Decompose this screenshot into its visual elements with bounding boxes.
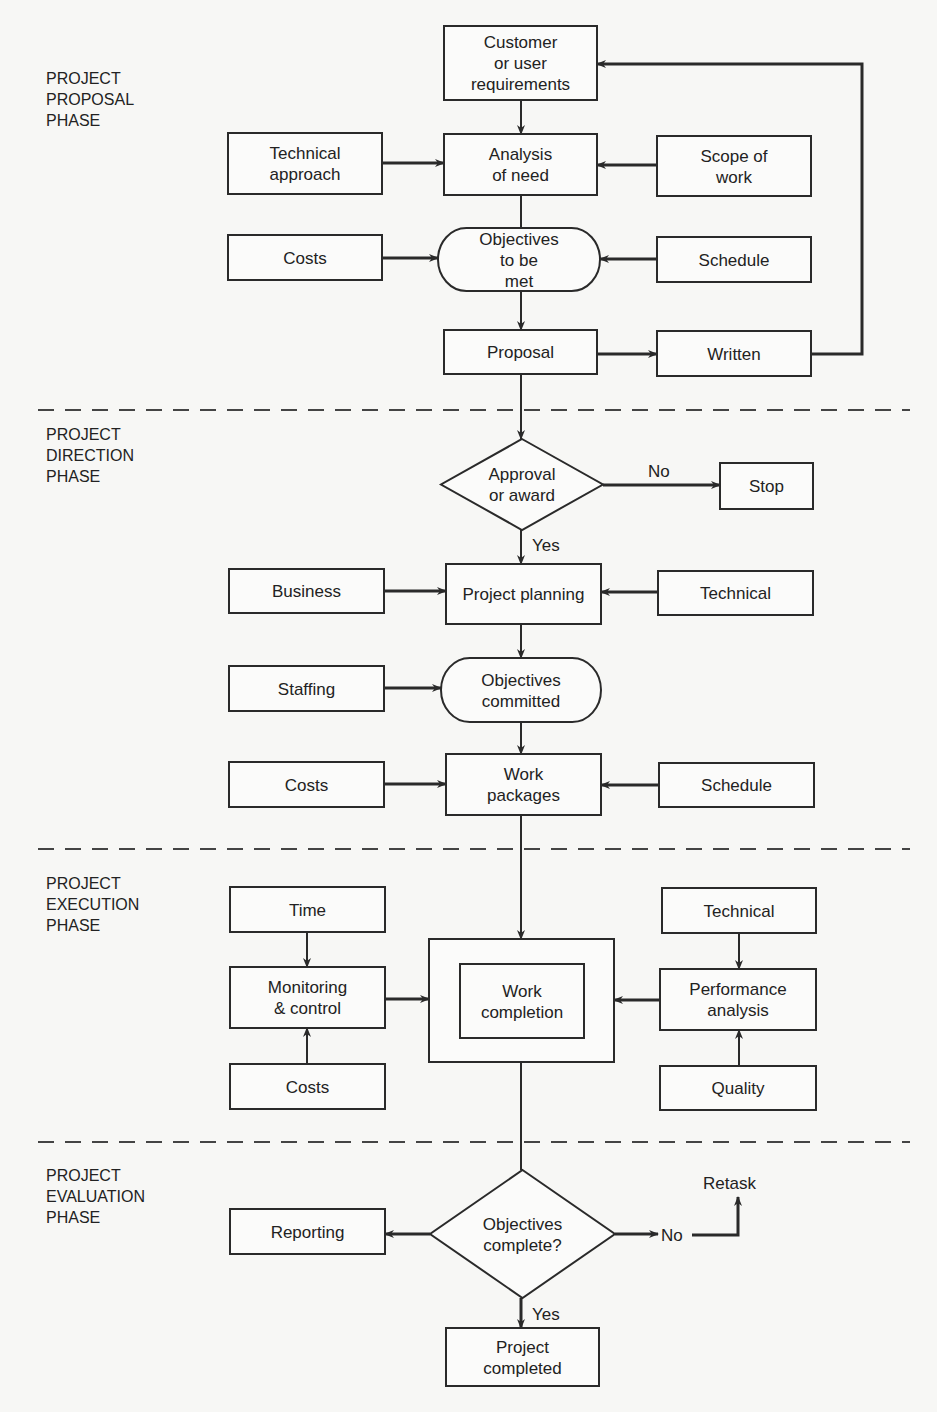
node-proposal: Proposal: [444, 330, 597, 374]
phase-label-proposal: PROJECTPROPOSALPHASE: [46, 70, 134, 129]
node-staffing: Staffing: [229, 666, 384, 711]
edge-written-feedback: [597, 64, 862, 354]
node-label: Business: [272, 582, 341, 601]
node-label: Proposal: [487, 343, 554, 362]
phase-label-direction: PROJECTDIRECTIONPHASE: [46, 426, 134, 485]
node-customer-requirements: Customeror userrequirements: [444, 26, 597, 100]
node-technical-direction: Technical: [658, 571, 813, 615]
project-lifecycle-flowchart: PROJECTPROPOSALPHASEPROJECTDIRECTIONPHAS…: [0, 0, 937, 1412]
node-approval-or-award: Approvalor award: [441, 439, 603, 530]
node-schedule-direction: Schedule: [659, 763, 814, 807]
node-label: Costs: [285, 776, 328, 795]
node-reporting: Reporting: [230, 1209, 385, 1254]
node-label: Quality: [712, 1079, 765, 1098]
node-label: Technical: [704, 902, 775, 921]
node-stop: Stop: [720, 463, 813, 509]
node-technical-execution: Technical: [662, 888, 816, 933]
edge-label-approval-to-planning: Yes: [532, 536, 560, 555]
node-label: Stop: [749, 477, 784, 496]
node-project-planning: Project planning: [446, 564, 601, 624]
node-label: Costs: [283, 249, 326, 268]
node-objectives-committed: Objectivescommitted: [441, 658, 601, 722]
node-quality: Quality: [660, 1066, 816, 1110]
node-objectives-to-be-met: Objectivesto bemet: [438, 228, 600, 291]
node-time: Time: [230, 887, 385, 932]
node-schedule-proposal: Schedule: [657, 237, 811, 282]
node-label: Schedule: [699, 251, 770, 270]
node-analysis-of-need: Analysisof need: [444, 134, 597, 195]
node-label: Project planning: [463, 585, 585, 604]
node-performance-analysis: Performanceanalysis: [660, 969, 816, 1030]
node-technical-approach: Technicalapproach: [228, 133, 382, 194]
node-costs-proposal: Costs: [228, 235, 382, 280]
node-objectives-complete: Objectivescomplete?: [430, 1170, 615, 1298]
node-label: Time: [289, 901, 326, 920]
node-scope-of-work: Scope ofwork: [657, 136, 811, 196]
node-label: Costs: [286, 1078, 329, 1097]
node-label: Reporting: [271, 1223, 345, 1242]
node-written: Written: [657, 331, 811, 376]
retask-label: Retask: [703, 1174, 756, 1193]
node-work-completion: Workcompletion: [460, 964, 584, 1038]
node-label: Technical: [700, 584, 771, 603]
edge-label-approval-to-stop: No: [648, 462, 670, 481]
node-project-completed: Projectcompleted: [446, 1328, 599, 1386]
no-label-evaluation: No: [661, 1226, 683, 1245]
phase-label-evaluation: PROJECTEVALUATIONPHASE: [46, 1167, 145, 1226]
edge-no-to-retask: [692, 1197, 738, 1235]
node-monitoring-control: Monitoring& control: [230, 967, 385, 1028]
node-label: Staffing: [278, 680, 335, 699]
node-work-packages: Workpackages: [446, 754, 601, 815]
phase-labels: PROJECTPROPOSALPHASEPROJECTDIRECTIONPHAS…: [46, 70, 145, 1226]
node-business: Business: [229, 569, 384, 613]
phase-label-execution: PROJECTEXECUTIONPHASE: [46, 875, 139, 934]
node-costs-execution: Costs: [230, 1064, 385, 1109]
node-costs-direction: Costs: [229, 762, 384, 807]
node-label: Written: [707, 345, 761, 364]
node-label: Schedule: [701, 776, 772, 795]
edge-label-evaluation-to-completed: Yes: [532, 1305, 560, 1324]
